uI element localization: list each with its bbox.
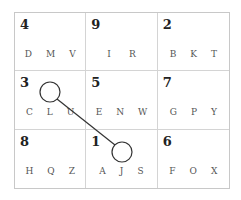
cell-number: 7 bbox=[163, 75, 172, 90]
keypad-grid: 4 D M V 9 I R 2 B K T 3 C L U 5 E N bbox=[14, 12, 230, 189]
letter: J bbox=[120, 166, 124, 176]
cell-2[interactable]: 2 B K T bbox=[158, 13, 229, 71]
letter: N bbox=[116, 107, 124, 117]
letter: L bbox=[47, 107, 53, 117]
letter: M bbox=[46, 49, 55, 59]
cell-1[interactable]: 1 A J S bbox=[86, 130, 157, 188]
letter: T bbox=[211, 49, 217, 59]
cell-letters: I R bbox=[86, 49, 156, 59]
cell-letters: A J S bbox=[86, 166, 156, 176]
letter: A bbox=[99, 166, 106, 176]
cell-3[interactable]: 3 C L U bbox=[15, 71, 86, 129]
cell-letters: G P Y bbox=[158, 107, 229, 117]
cell-number: 2 bbox=[163, 17, 172, 32]
letter: Q bbox=[47, 166, 54, 176]
letter: K bbox=[190, 49, 197, 59]
cell-number: 6 bbox=[163, 134, 172, 149]
cell-letters: C L U bbox=[15, 107, 85, 117]
letter: Y bbox=[211, 107, 217, 117]
letter: H bbox=[25, 166, 33, 176]
letter: U bbox=[67, 107, 75, 117]
letter: D bbox=[25, 49, 32, 59]
cell-8[interactable]: 8 H Q Z bbox=[15, 130, 86, 188]
cell-6[interactable]: 6 F O X bbox=[158, 130, 229, 188]
letter: C bbox=[26, 107, 33, 117]
cell-letters: D M V bbox=[15, 49, 85, 59]
cell-5[interactable]: 5 E N W bbox=[86, 71, 157, 129]
cell-number: 1 bbox=[91, 134, 100, 149]
letter: Z bbox=[69, 166, 75, 176]
cell-letters: F O X bbox=[158, 166, 229, 176]
cell-7[interactable]: 7 G P Y bbox=[158, 71, 229, 129]
cell-number: 5 bbox=[91, 75, 100, 90]
letter: F bbox=[169, 166, 175, 176]
letter: E bbox=[96, 107, 103, 117]
cell-9[interactable]: 9 I R bbox=[86, 13, 157, 71]
letter: O bbox=[190, 166, 197, 176]
cell-letters: E N W bbox=[86, 107, 156, 117]
letter: P bbox=[191, 107, 197, 117]
letter: G bbox=[170, 107, 177, 117]
letter: X bbox=[211, 166, 217, 176]
letter: W bbox=[138, 107, 147, 117]
letter: V bbox=[69, 49, 76, 59]
cell-number: 9 bbox=[91, 17, 100, 32]
cell-number: 4 bbox=[20, 17, 29, 32]
cell-4[interactable]: 4 D M V bbox=[15, 13, 86, 71]
cell-number: 8 bbox=[20, 134, 29, 149]
letter: S bbox=[137, 166, 143, 176]
cell-number: 3 bbox=[20, 75, 29, 90]
cell-letters: H Q Z bbox=[15, 166, 85, 176]
letter: R bbox=[129, 49, 136, 59]
cell-letters: B K T bbox=[158, 49, 229, 59]
letter: B bbox=[170, 49, 177, 59]
letter: I bbox=[107, 49, 111, 59]
